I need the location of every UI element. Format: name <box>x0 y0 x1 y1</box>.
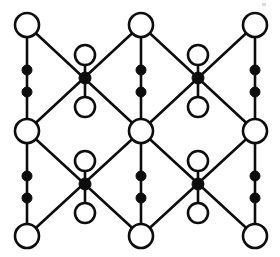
scan-artifacts-layer <box>262 3 266 6</box>
filled-crossing-node[interactable] <box>79 72 91 84</box>
open-circle-small[interactable] <box>188 97 208 117</box>
scan-speck <box>262 3 266 6</box>
filled-dot[interactable] <box>22 65 32 75</box>
filled-dot[interactable] <box>136 171 146 181</box>
open-circle-large[interactable] <box>129 224 153 248</box>
filled-dot[interactable] <box>22 171 32 181</box>
filled-crossing-node[interactable] <box>192 72 204 84</box>
open-circle-large[interactable] <box>15 13 39 37</box>
filled-dot[interactable] <box>22 193 32 203</box>
lattice-diagram <box>0 0 280 257</box>
open-circle-small[interactable] <box>75 203 95 223</box>
open-circle-small[interactable] <box>188 203 208 223</box>
open-circle-large[interactable] <box>243 119 267 143</box>
filled-dot[interactable] <box>250 65 260 75</box>
open-circle-small[interactable] <box>75 151 95 171</box>
filled-dot[interactable] <box>250 171 260 181</box>
open-circle-large[interactable] <box>243 224 267 248</box>
open-circle-large[interactable] <box>129 119 153 143</box>
open-circle-large[interactable] <box>15 224 39 248</box>
filled-dot[interactable] <box>136 87 146 97</box>
open-circle-small[interactable] <box>75 45 95 65</box>
open-circle-small[interactable] <box>75 97 95 117</box>
open-circle-large[interactable] <box>129 13 153 37</box>
open-circle-large[interactable] <box>243 13 267 37</box>
lattice-svg-canvas <box>0 0 280 257</box>
filled-dot[interactable] <box>22 87 32 97</box>
filled-crossing-node[interactable] <box>192 178 204 190</box>
filled-dot[interactable] <box>136 193 146 203</box>
open-circle-small[interactable] <box>188 45 208 65</box>
open-circle-large[interactable] <box>15 119 39 143</box>
filled-dot[interactable] <box>250 87 260 97</box>
filled-dot[interactable] <box>136 65 146 75</box>
open-circle-small[interactable] <box>188 151 208 171</box>
filled-crossing-node[interactable] <box>79 178 91 190</box>
filled-dot[interactable] <box>250 193 260 203</box>
